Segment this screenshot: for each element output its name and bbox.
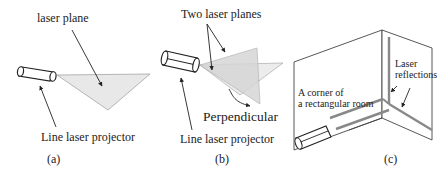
panel-b: Two laser planes Perpendicular Line lase… <box>160 7 283 166</box>
laser-plane-a <box>57 74 150 110</box>
caption-a: (a) <box>47 152 60 166</box>
caption-c: (c) <box>384 152 397 166</box>
laser-plane-vertical <box>200 48 260 104</box>
projector-a-icon <box>17 66 57 81</box>
label-perpendicular: Perpendicular <box>203 109 278 124</box>
label-corner-line1: A corner of <box>298 87 344 98</box>
label-laser-plane: laser plane <box>37 11 89 25</box>
projector-arrow-a <box>40 86 56 127</box>
panel-c: A corner of a rectangular room Laser ref… <box>294 30 438 166</box>
projector-arrow-b <box>181 78 192 130</box>
panel-a: laser plane Line laser projector (a) <box>17 11 150 166</box>
label-reflections-line1: Laser <box>395 58 418 69</box>
label-projector-b: Line laser projector <box>180 132 274 146</box>
label-two-planes: Two laser planes <box>181 7 262 21</box>
label-corner-line2: a rectangular room <box>298 98 374 109</box>
label-projector-a: Line laser projector <box>41 130 135 144</box>
projector-b-icon <box>160 51 200 73</box>
label-reflections-line2: reflections <box>395 69 437 80</box>
laser-diagram: laser plane Line laser projector (a) Two… <box>0 0 448 176</box>
caption-b: (b) <box>215 152 229 166</box>
